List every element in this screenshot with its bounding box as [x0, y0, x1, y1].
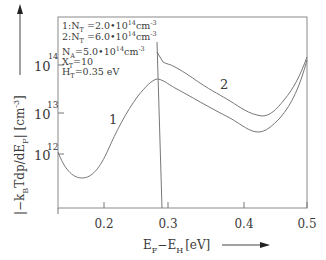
svg-text:13: 13 — [47, 100, 59, 110]
vertical-marker-line — [157, 42, 162, 208]
arrow-right-icon — [260, 242, 270, 248]
x-tick-label: 0.5 — [297, 217, 316, 231]
x-tick-label: 0.4 — [234, 217, 253, 231]
y-tick-label-12: 10 12 — [34, 142, 58, 163]
x-tick-label: 0.2 — [94, 217, 113, 231]
x-tick-label: 0.3 — [158, 217, 177, 231]
legend: 1:NT =2.0•1014cm-3 2:NT =6.0•1014cm-3 NA… — [62, 19, 157, 80]
svg-text:10: 10 — [34, 59, 51, 74]
svg-text:EF−EH[eV]: EF−EH[eV] — [143, 238, 210, 255]
chart: 0.2 0.3 0.4 0.5 10 14 10 13 10 12 |−kBTd… — [0, 0, 326, 260]
y-tick-label-14: 10 14 — [34, 52, 58, 74]
y-tick-label-13: 10 13 — [34, 100, 59, 122]
x-axis-label: EF−EH[eV] — [143, 238, 270, 255]
y-axis-arrow — [17, 4, 23, 75]
arrow-up-icon — [17, 4, 23, 14]
curve-label-1: 1 — [109, 112, 117, 127]
svg-text:12: 12 — [47, 142, 58, 152]
curve-1 — [58, 60, 307, 178]
y-axis-label: |−kBTdp/dEF| [cm-3] — [12, 95, 30, 215]
svg-text:|−kBTdp/dEF| [cm-3]: |−kBTdp/dEF| [cm-3] — [12, 95, 30, 215]
legend-entry-2: 2:NT =6.0•1014cm-3 — [62, 30, 157, 45]
curve-2 — [157, 52, 307, 116]
svg-text:14: 14 — [48, 52, 58, 61]
curve-label-2: 2 — [220, 77, 228, 92]
y-axis-ticks — [58, 65, 64, 154]
